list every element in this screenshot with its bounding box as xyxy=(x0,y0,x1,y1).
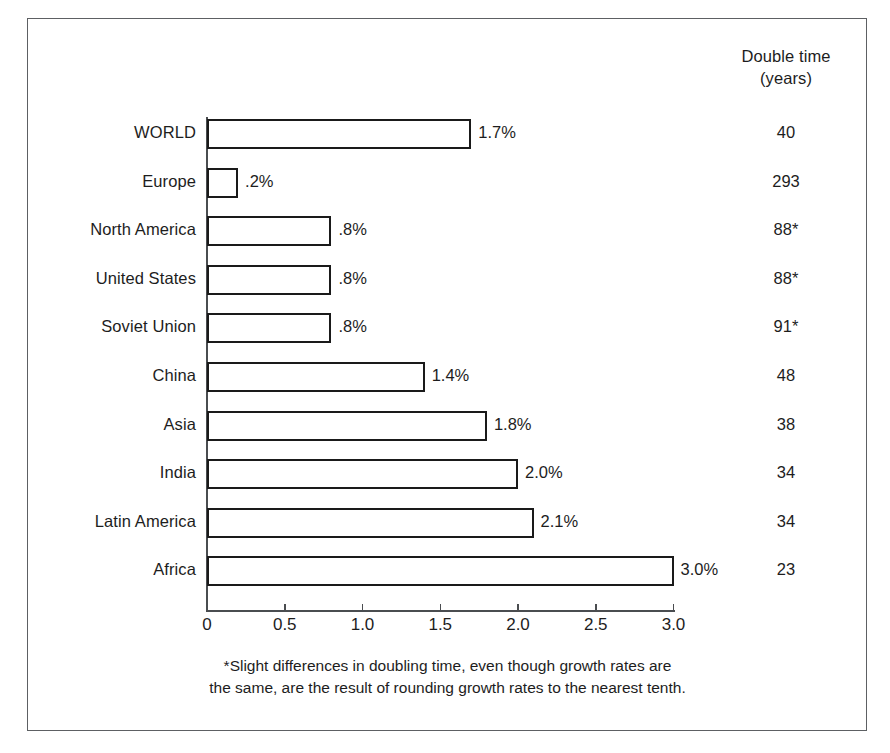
footnote-line-2: the same, are the result of rounding gro… xyxy=(60,677,835,699)
bar xyxy=(207,508,534,538)
axis-tick-label: 3.0 xyxy=(644,615,704,635)
axis-tick xyxy=(595,604,597,612)
bar-row: WORLD1.7%40 xyxy=(0,119,890,149)
bar xyxy=(207,459,518,489)
footnote: *Slight differences in doubling time, ev… xyxy=(60,655,835,699)
bar xyxy=(207,265,331,295)
bar xyxy=(207,313,331,343)
bar xyxy=(207,362,425,392)
bar-row: Europe.2%293 xyxy=(0,168,890,198)
bar-value-label: 2.1% xyxy=(541,512,579,531)
plot-area: 00.51.01.52.02.53.0 WORLD1.7%40Europe.2%… xyxy=(0,0,890,753)
category-label: Africa xyxy=(153,560,196,579)
bar-value-label: .8% xyxy=(338,317,366,336)
bar-row: Soviet Union.8%91* xyxy=(0,313,890,343)
axis-tick-label: 2.5 xyxy=(566,615,626,635)
bar-value-label: .8% xyxy=(338,220,366,239)
axis-tick xyxy=(440,604,442,612)
category-label: Soviet Union xyxy=(101,317,196,336)
axis-tick-label: 0 xyxy=(177,615,237,635)
axis-tick xyxy=(206,604,208,612)
bar-value-label: .8% xyxy=(338,269,366,288)
category-label: Europe xyxy=(142,172,196,191)
bar-row: China1.4%48 xyxy=(0,362,890,392)
bar xyxy=(207,216,331,246)
double-time-value: 88* xyxy=(700,220,872,239)
bar-row: United States.8%88* xyxy=(0,265,890,295)
bar-value-label: 1.8% xyxy=(494,415,532,434)
axis-tick-label: 2.0 xyxy=(488,615,548,635)
double-time-value: 88* xyxy=(700,269,872,288)
bar-value-label: 1.4% xyxy=(432,366,470,385)
bar-row: India2.0%34 xyxy=(0,459,890,489)
category-label: WORLD xyxy=(134,123,196,142)
axis-tick-label: 1.5 xyxy=(410,615,470,635)
axis-tick-label: 0.5 xyxy=(255,615,315,635)
bar-value-label: .2% xyxy=(245,172,273,191)
bar xyxy=(207,411,487,441)
footnote-line-1: *Slight differences in doubling time, ev… xyxy=(60,655,835,677)
bar xyxy=(207,556,674,586)
double-time-value: 40 xyxy=(700,123,872,142)
double-time-value: 34 xyxy=(700,463,872,482)
category-label: China xyxy=(152,366,196,385)
axis-tick xyxy=(362,604,364,612)
bar-row: Africa3.0%23 xyxy=(0,556,890,586)
category-label: Asia xyxy=(164,415,197,434)
category-label: United States xyxy=(96,269,196,288)
double-time-value: 48 xyxy=(700,366,872,385)
bar xyxy=(207,168,238,198)
growth-rate-bar-chart-figure: Double time (years) 00.51.01.52.02.53.0 … xyxy=(0,0,890,753)
bar-value-label: 1.7% xyxy=(478,123,516,142)
axis-tick xyxy=(517,604,519,612)
axis-tick-label: 1.0 xyxy=(333,615,393,635)
bar-row: Asia1.8%38 xyxy=(0,411,890,441)
axis-tick xyxy=(673,604,675,612)
category-label: India xyxy=(160,463,196,482)
double-time-value: 91* xyxy=(700,317,872,336)
double-time-value: 23 xyxy=(700,560,872,579)
bar-row: Latin America2.1%34 xyxy=(0,508,890,538)
double-time-value: 34 xyxy=(700,512,872,531)
bar xyxy=(207,119,471,149)
axis-tick xyxy=(284,604,286,612)
double-time-value: 293 xyxy=(700,172,872,191)
category-label: Latin America xyxy=(95,512,196,531)
category-label: North America xyxy=(90,220,196,239)
bar-value-label: 2.0% xyxy=(525,463,563,482)
bar-row: North America.8%88* xyxy=(0,216,890,246)
double-time-value: 38 xyxy=(700,415,872,434)
